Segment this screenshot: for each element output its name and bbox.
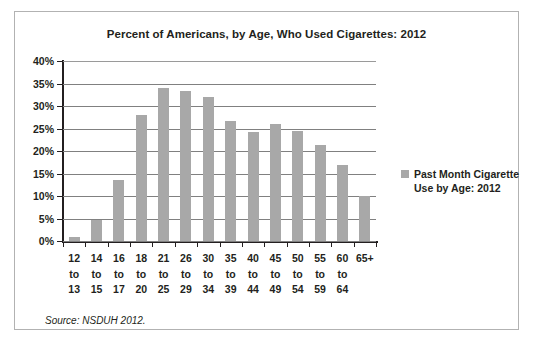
x-tick-mark (331, 242, 332, 247)
gridline (63, 129, 376, 130)
x-tick-mark (85, 242, 86, 247)
y-tick-mark (57, 196, 63, 197)
bar (248, 132, 259, 241)
legend-label: Past Month Cigarette Use by Age: 2012 (414, 167, 519, 195)
x-tick-mark (197, 242, 198, 247)
x-tick-mark (264, 242, 265, 247)
plot-area: 0%5%10%15%20%25%30%35%40% 12to1314to1516… (63, 61, 376, 241)
bar (225, 121, 236, 241)
y-tick-label: 40% (33, 55, 54, 67)
y-tick-label: 20% (33, 145, 54, 157)
y-tick-mark (57, 61, 63, 62)
y-tick-mark (57, 84, 63, 85)
y-tick-mark (57, 106, 63, 107)
bar (292, 131, 303, 241)
x-tick-label-line: 65+ (348, 251, 382, 267)
gridline (63, 84, 376, 85)
gridline (63, 196, 376, 197)
x-tick-mark (108, 242, 109, 247)
y-tick-label: 25% (33, 123, 54, 135)
x-tick-label: 65+ (348, 251, 382, 267)
bar (180, 91, 191, 241)
legend-swatch-icon (401, 170, 409, 178)
bar (158, 88, 169, 241)
x-tick-mark (152, 242, 153, 247)
y-tick-label: 5% (39, 213, 54, 225)
bar (337, 165, 348, 241)
x-tick-mark (287, 242, 288, 247)
bar (69, 237, 80, 242)
gridline (63, 106, 376, 107)
gridline (63, 174, 376, 175)
bar (113, 180, 124, 241)
x-tick-mark (354, 242, 355, 247)
x-tick-mark (220, 242, 221, 247)
x-tick-mark (309, 242, 310, 247)
gridline (63, 61, 376, 62)
chart-figure-frame: Percent of Americans, by Age, Who Used C… (14, 11, 519, 330)
gridline (63, 151, 376, 152)
x-tick-mark (242, 242, 243, 247)
x-tick-label-line: 64 (325, 282, 359, 298)
y-tick-label: 15% (33, 168, 54, 180)
bar (203, 97, 214, 241)
y-tick-mark (57, 174, 63, 175)
chart-legend: Past Month Cigarette Use by Age: 2012 (401, 167, 538, 195)
x-tick-mark (376, 242, 377, 247)
bar (270, 124, 281, 241)
y-tick-label: 35% (33, 78, 54, 90)
bar (359, 196, 370, 241)
y-tick-mark (57, 129, 63, 130)
bar (315, 145, 326, 241)
y-tick-mark (57, 151, 63, 152)
bar (91, 220, 102, 241)
y-tick-label: 10% (33, 190, 54, 202)
x-tick-mark (130, 242, 131, 247)
gridline (63, 219, 376, 220)
source-note: Source: NSDUH 2012. (45, 315, 146, 326)
bar (136, 115, 147, 241)
y-tick-label: 30% (33, 100, 54, 112)
y-tick-label: 0% (39, 235, 54, 247)
y-tick-mark (57, 219, 63, 220)
x-tick-label-line: to (325, 267, 359, 283)
x-tick-mark (63, 242, 64, 247)
chart-title: Percent of Americans, by Age, Who Used C… (15, 28, 518, 40)
x-tick-mark (175, 242, 176, 247)
